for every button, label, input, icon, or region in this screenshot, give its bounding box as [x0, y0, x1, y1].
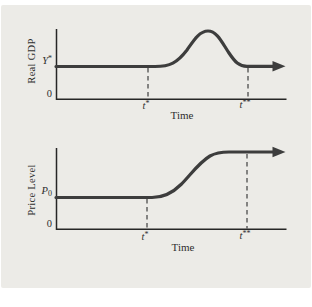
gdp-curve	[56, 31, 274, 67]
price-x-tick-t-star: t*	[125, 232, 165, 243]
gdp-x-axis-label: Time	[152, 110, 212, 121]
price-origin-label: 0	[34, 219, 52, 230]
price-curve-arrowhead	[273, 147, 286, 158]
gdp-tick2-superscript: **	[242, 98, 250, 107]
price-x-tick-t-double-star: t**	[225, 231, 265, 242]
gdp-y-reference-label: Y*	[28, 56, 52, 67]
price-x-axis-label: Time	[153, 242, 213, 253]
gdp-x-tick-t-double-star: t**	[225, 100, 265, 111]
price-tick1-superscript: *	[144, 230, 148, 239]
gdp-curve-arrowhead	[273, 61, 286, 72]
gdp-origin-label: 0	[34, 89, 52, 100]
price-axes	[57, 148, 287, 229]
price-curve	[56, 152, 274, 198]
price-chart	[56, 147, 287, 230]
figure: Real GDP Y* 0 t* t** Time Price Level P0…	[0, 0, 312, 307]
charts-canvas	[0, 0, 312, 307]
price-tick2-superscript: **	[242, 229, 250, 238]
gdp-y-ref-superscript: *	[48, 54, 52, 63]
gdp-tick1-superscript: *	[145, 99, 149, 108]
price-y-ref-subscript: 0	[48, 189, 52, 198]
gdp-chart	[56, 29, 287, 99]
price-y-reference-label: P0	[28, 186, 52, 197]
